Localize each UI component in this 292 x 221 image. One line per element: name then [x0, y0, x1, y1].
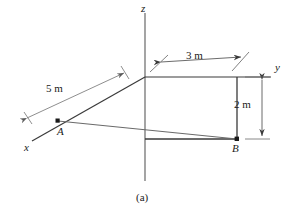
segment-a-to-b: [58, 121, 237, 139]
x-axis-label: x: [24, 142, 29, 153]
z-axis-label: z: [141, 3, 145, 14]
plane-rectangle: [145, 77, 237, 139]
point-label-b: B: [232, 143, 239, 154]
figure-caption: (a): [136, 192, 148, 203]
point-marker-b: [235, 137, 239, 141]
figure-canvas: z y x A B 5 m 3 m 2 m (a): [0, 0, 292, 221]
dimension-label-3m: 3 m: [186, 50, 203, 61]
dimension-label-5m: 5 m: [46, 83, 63, 94]
diagram-svg: [0, 0, 292, 221]
point-label-a: A: [57, 126, 64, 137]
y-axis-label: y: [275, 62, 280, 73]
dimension-label-2m: 2 m: [234, 99, 251, 110]
point-marker-a: [56, 119, 60, 123]
